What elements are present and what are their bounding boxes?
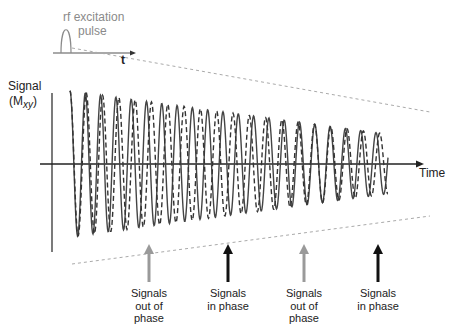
rf-pulse-shape: [61, 30, 71, 53]
rf-pulse-label-line2: pulse: [78, 25, 107, 39]
arrow-in-phase-1: [223, 244, 233, 282]
annotation-line: out of: [274, 300, 334, 313]
annotation-in-phase-1: Signals in phase: [198, 287, 258, 312]
annotation-out-of-phase-1: Signals out of phase: [119, 287, 179, 325]
fid-diagram: [0, 0, 461, 333]
decay-envelope-top: [72, 48, 430, 112]
inset-arrowhead-icon: [130, 51, 136, 56]
y-axis-label-subscript: xy: [23, 99, 33, 110]
arrow-out-of-phase-1: [144, 244, 154, 282]
annotation-line: Signals: [198, 287, 258, 300]
annotation-line: phase: [119, 312, 179, 325]
decay-envelope-bottom: [72, 216, 430, 264]
annotation-line: in phase: [198, 300, 258, 313]
annotation-in-phase-2: Signals in phase: [348, 287, 408, 312]
rf-pulse-label-line1: rf excitation: [63, 11, 124, 25]
up-arrow-icon: [299, 244, 309, 254]
annotation-out-of-phase-2: Signals out of phase: [274, 287, 334, 325]
annotation-line: in phase: [348, 300, 408, 313]
arrow-out-of-phase-2: [299, 244, 309, 282]
annotation-line: phase: [274, 312, 334, 325]
up-arrow-icon: [373, 244, 383, 254]
annotation-line: Signals: [119, 287, 179, 300]
inset-t-label: t: [121, 54, 125, 68]
annotation-line: Signals: [274, 287, 334, 300]
y-axis-label-line2: (Mxy): [9, 95, 37, 109]
annotation-line: Signals: [348, 287, 408, 300]
time-axis-label: Time: [419, 167, 445, 181]
y-axis-label-prefix: (M: [9, 94, 23, 108]
up-arrow-icon: [223, 244, 233, 254]
y-axis-label-line1: Signal: [8, 80, 41, 94]
arrow-in-phase-2: [373, 244, 383, 282]
y-axis-label-suffix: ): [33, 94, 37, 108]
up-arrow-icon: [144, 244, 154, 254]
annotation-line: out of: [119, 300, 179, 313]
